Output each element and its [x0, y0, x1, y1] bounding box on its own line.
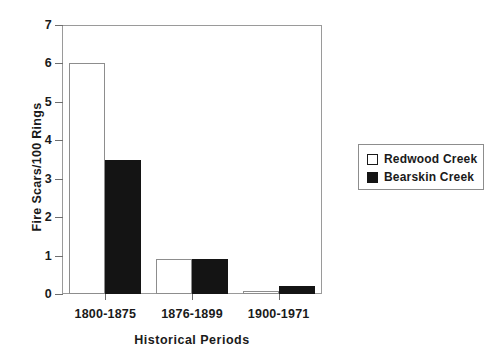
x-axis-tick	[105, 294, 106, 300]
y-axis-tick-label: 7	[12, 19, 52, 32]
x-axis-tick	[279, 294, 280, 300]
legend-swatch-filled-icon	[367, 172, 378, 183]
legend-item-label: Redwood Creek	[384, 152, 477, 166]
legend-swatch-open-icon	[367, 154, 378, 165]
bars-layer	[62, 25, 322, 294]
bar	[279, 286, 315, 294]
legend-item[interactable]: Bearskin Creek	[367, 168, 483, 186]
x-axis-title: Historical Periods	[62, 333, 322, 347]
legend: Redwood Creek Bearskin Creek	[358, 144, 484, 190]
x-axis-tick	[192, 294, 193, 300]
fire-scar-bar-chart: 012345671800-18751876-18991900-1971 Fire…	[0, 0, 501, 363]
bar	[69, 63, 105, 294]
bar	[192, 259, 228, 294]
bar	[105, 160, 141, 295]
bar	[156, 259, 192, 294]
bar	[243, 291, 279, 294]
y-axis-title: Fire Scars/100 Rings	[30, 67, 44, 267]
legend-item-label: Bearskin Creek	[384, 170, 474, 184]
x-axis-tick-label: 1900-1971	[219, 307, 339, 321]
y-axis-tick-label: 0	[12, 288, 52, 301]
y-axis-tick	[55, 294, 63, 295]
legend-item[interactable]: Redwood Creek	[367, 150, 483, 168]
